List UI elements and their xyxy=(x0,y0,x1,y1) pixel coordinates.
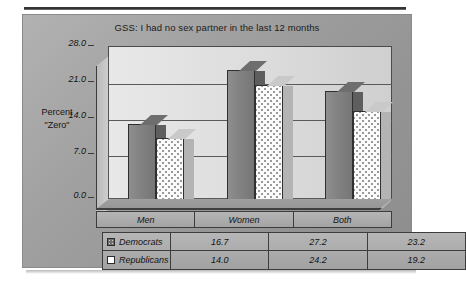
y-tick-label-21: 21.0 xyxy=(52,74,86,84)
value-democrats-women: 27.2 xyxy=(269,233,367,250)
y-tick-label-7: 7.0 xyxy=(52,146,86,156)
chart-panel: GSS: I had no sex partner in the last 12… xyxy=(22,14,412,268)
table-row[interactable]: Republicans 14.0 24.2 19.2 xyxy=(103,251,465,269)
chart-title: GSS: I had no sex partner in the last 12… xyxy=(22,22,412,33)
legend-swatch-republicans-icon xyxy=(107,256,115,264)
legend-entry-republicans[interactable]: Republicans xyxy=(103,251,171,269)
legend-entry-democrats[interactable]: Democrats xyxy=(103,233,171,250)
y-tick-mark-0 xyxy=(88,197,94,198)
bar-democrats-men[interactable] xyxy=(128,124,156,209)
bar-side-face xyxy=(184,139,194,208)
legend-swatch-democrats-icon xyxy=(107,238,115,246)
bar-republicans-women[interactable] xyxy=(255,85,283,209)
legend-label-democrats: Democrats xyxy=(119,237,163,247)
y-tick-label-14: 14.0 xyxy=(52,110,86,120)
y-axis-line-back xyxy=(108,56,109,199)
value-democrats-both: 23.2 xyxy=(368,233,465,250)
legend-label-republicans: Republicans xyxy=(119,255,169,265)
value-republicans-women: 24.2 xyxy=(269,251,367,269)
y-tick-mark-21 xyxy=(88,81,94,82)
y-tick-mark-28 xyxy=(88,45,94,46)
table-row[interactable]: Democrats 16.7 27.2 23.2 xyxy=(103,233,465,251)
y-tick-mark-7 xyxy=(88,153,94,154)
category-header-women: Women xyxy=(195,212,293,227)
bar-republicans-men[interactable] xyxy=(156,138,184,209)
y-tick-mark-14 xyxy=(88,117,94,118)
y-tick-label-0: 0.0 xyxy=(52,190,86,200)
value-democrats-men: 16.7 xyxy=(171,233,269,250)
bar-side-face xyxy=(283,86,293,208)
bar-democrats-both[interactable] xyxy=(325,91,353,209)
top-divider-rule xyxy=(24,7,406,10)
legend-value-table: Democrats 16.7 27.2 23.2 Republicans 14.… xyxy=(102,232,466,270)
y-tick-label-28: 28.0 xyxy=(52,38,86,48)
plot-area xyxy=(96,56,392,209)
bar-side-face xyxy=(381,112,391,208)
category-header-both: Both xyxy=(294,212,391,227)
plot-baseline-edge xyxy=(96,208,380,210)
y-axis-line-front xyxy=(96,66,97,209)
bar-republicans-both[interactable] xyxy=(353,111,381,209)
category-header-row: Men Women Both xyxy=(96,211,392,228)
value-republicans-both: 19.2 xyxy=(368,251,465,269)
bar-democrats-women[interactable] xyxy=(227,70,255,209)
category-header-men: Men xyxy=(97,212,195,227)
value-republicans-men: 14.0 xyxy=(171,251,269,269)
y-axis-title-line2: "Zero" xyxy=(26,119,88,132)
panel-drop-shadow xyxy=(26,270,416,274)
